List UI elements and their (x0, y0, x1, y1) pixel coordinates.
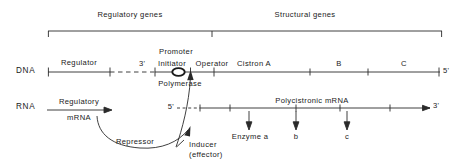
bracket-label-structural-genes: Structural genes (275, 10, 336, 19)
enzyme-arrows (246, 111, 350, 130)
row-label-dna: DNA (16, 66, 35, 75)
dna-label-five-prime: 5' (443, 66, 449, 75)
dna-label-three-prime: 3' (139, 59, 145, 68)
rna-label-polycistronic-mrna: Polycistronic mRNA (275, 96, 348, 105)
bracket-label-regulatory-genes: Regulatory genes (97, 10, 162, 19)
enzyme-label-a: Enzyme a (232, 132, 269, 141)
annotation-inducer-line2: (effector) (189, 150, 223, 159)
dna-label-cistron-b: B (336, 59, 341, 68)
rna-three-prime-arrow (423, 105, 431, 110)
dna-label-promoter: Promoter (159, 47, 193, 56)
repressor-arrowhead (184, 126, 190, 137)
rna-label-regulatory-mrna-line1: Regulatory (59, 97, 99, 106)
bracket-regulatory-and-structural (48, 31, 442, 37)
dna-label-cistron-a: Cistron A (237, 59, 271, 68)
enzyme-label-b: b (294, 132, 299, 141)
dna-label-operator: Operator (196, 59, 229, 68)
dna-label-initiator: Initiator (158, 59, 186, 68)
operon-diagram: Regulatory genes Structural genes DNA RN… (0, 0, 468, 165)
rna-label-regulatory-mrna-line2: mRNA (67, 113, 91, 122)
rna-label-five-prime: 5' (168, 102, 174, 111)
annotation-repressor: Repressor (116, 137, 154, 146)
dna-label-cistron-c: C (401, 59, 407, 68)
dna-label-polymerase: Polymerase (158, 79, 202, 88)
rna-label-three-prime: 3' (433, 101, 439, 110)
polymerase-icon (172, 68, 184, 76)
row-label-rna: RNA (16, 102, 35, 111)
annotation-inducer-line1: Inducer (189, 140, 217, 149)
dna-label-regulator: Regulator (61, 58, 97, 67)
inducer-polymerase-curve (176, 78, 190, 147)
enzyme-label-c: c (345, 132, 349, 141)
